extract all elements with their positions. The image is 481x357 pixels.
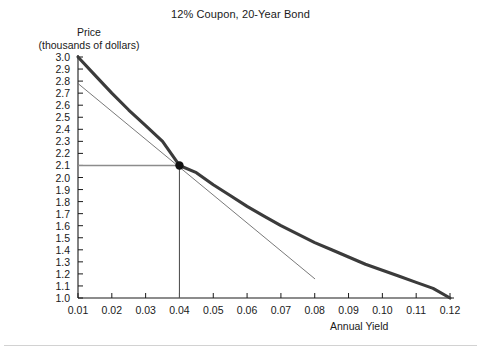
- tangency-point: [175, 161, 183, 169]
- footer-divider: [4, 345, 477, 346]
- tangent line at 0.04: [78, 84, 315, 279]
- price-yield curve: [78, 57, 450, 298]
- plot-area: [0, 0, 481, 357]
- x-axis-label: Annual Yield: [330, 320, 388, 332]
- price-yield-chart: 12% Coupon, 20-Year Bond Price (thousand…: [0, 0, 481, 357]
